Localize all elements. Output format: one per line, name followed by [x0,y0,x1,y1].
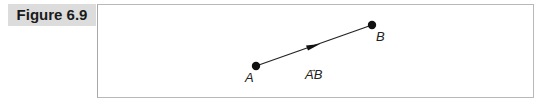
arrowhead-icon [306,44,320,51]
point-b [368,21,376,29]
vector-label: AB [304,67,323,82]
vector-diagram: A B → AB [0,0,544,104]
point-b-label: B [376,29,385,44]
point-a-label: A [244,70,254,85]
point-a [252,62,260,70]
